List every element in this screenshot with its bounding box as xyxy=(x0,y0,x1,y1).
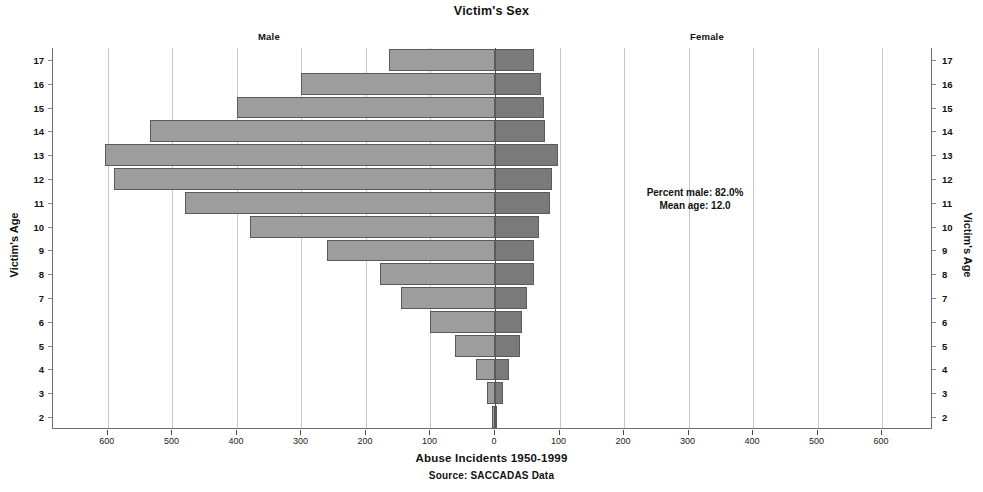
x-axis-tick-label-left: 600 xyxy=(99,436,114,446)
bar-row xyxy=(53,381,931,405)
x-axis-tick xyxy=(236,430,237,435)
bar-female[interactable] xyxy=(495,382,503,404)
bar-female[interactable] xyxy=(495,216,539,238)
y-axis-tick-label-left: 7 xyxy=(39,293,44,304)
y-axis-tick-label-right: 15 xyxy=(942,102,953,113)
bar-male[interactable] xyxy=(455,335,495,357)
y-axis-tick-label-left: 14 xyxy=(33,126,44,137)
y-axis-tick-label-right: 9 xyxy=(942,245,947,256)
y-axis-tick-right xyxy=(932,346,936,347)
y-axis-tick-label-right: 8 xyxy=(942,269,947,280)
bar-row xyxy=(53,310,931,334)
bar-female[interactable] xyxy=(495,287,527,309)
bar-row xyxy=(53,358,931,382)
x-axis-title: Abuse Incidents 1950-1999 xyxy=(0,452,983,464)
y-axis-tick-label-left: 16 xyxy=(33,78,44,89)
y-axis-tick-right xyxy=(932,155,936,156)
percent-male-text: Percent male: 82.0% xyxy=(600,186,790,199)
x-axis-tick xyxy=(365,430,366,435)
bar-female[interactable] xyxy=(495,240,534,262)
y-axis-tick-label-right: 10 xyxy=(942,221,953,232)
bar-row xyxy=(53,143,931,167)
bar-male[interactable] xyxy=(430,311,495,333)
y-axis-labels-right: 171615141312111098765432 xyxy=(932,48,983,429)
bar-row xyxy=(53,262,931,286)
x-axis-tick xyxy=(817,430,818,435)
y-axis-tick-label-left: 12 xyxy=(33,173,44,184)
y-axis-tick-label-right: 17 xyxy=(942,54,953,65)
x-axis-tick xyxy=(429,430,430,435)
x-axis-tick-label-right: 600 xyxy=(874,436,889,446)
x-axis-tick-label-right: 200 xyxy=(616,436,631,446)
y-axis-tick-label-left: 2 xyxy=(39,412,44,423)
group-label-female: Female xyxy=(690,31,724,42)
bar-male[interactable] xyxy=(150,120,495,142)
bar-row xyxy=(53,96,931,120)
x-axis-tick xyxy=(300,430,301,435)
bar-female[interactable] xyxy=(495,120,545,142)
bar-row xyxy=(53,334,931,358)
bar-male[interactable] xyxy=(114,168,495,190)
x-axis-tick xyxy=(494,430,495,435)
bar-male[interactable] xyxy=(237,97,495,119)
bar-row xyxy=(53,167,931,191)
y-axis-tick-label-right: 14 xyxy=(942,126,953,137)
y-axis-tick-label-left: 10 xyxy=(33,221,44,232)
y-axis-tick-label-right: 12 xyxy=(942,173,953,184)
y-axis-tick-right xyxy=(932,250,936,251)
plot-area xyxy=(52,48,932,429)
y-axis-tick-right xyxy=(932,369,936,370)
bar-female[interactable] xyxy=(495,49,534,71)
y-axis-tick-right xyxy=(932,179,936,180)
y-axis-tick-label-right: 5 xyxy=(942,340,947,351)
bar-male[interactable] xyxy=(301,73,495,95)
y-axis-tick-label-right: 16 xyxy=(942,78,953,89)
x-axis-tick xyxy=(688,430,689,435)
bar-row xyxy=(53,191,931,215)
x-axis-tick-label-right: 100 xyxy=(551,436,566,446)
bar-male[interactable] xyxy=(327,240,495,262)
bar-female[interactable] xyxy=(495,73,541,95)
bar-male[interactable] xyxy=(389,49,495,71)
bar-male[interactable] xyxy=(487,382,495,404)
x-axis-tick-label-right: 500 xyxy=(809,436,824,446)
bar-female[interactable] xyxy=(495,335,520,357)
x-axis-tick-label-left: 300 xyxy=(293,436,308,446)
y-axis-tick-label-left: 11 xyxy=(34,197,44,208)
bar-female[interactable] xyxy=(495,359,509,381)
y-axis-tick-label-right: 13 xyxy=(942,150,953,161)
bar-row xyxy=(53,215,931,239)
bar-female[interactable] xyxy=(495,144,558,166)
y-axis-tick-right xyxy=(932,131,936,132)
statistics-annotation: Percent male: 82.0% Mean age: 12.0 xyxy=(600,186,790,212)
x-axis-tick-label-right: 400 xyxy=(745,436,760,446)
x-axis-tick-label-left: 100 xyxy=(422,436,437,446)
bar-row xyxy=(53,48,931,72)
bar-male[interactable] xyxy=(105,144,495,166)
chart-title: Victim's Sex xyxy=(0,4,983,18)
bar-male[interactable] xyxy=(380,263,495,285)
bar-male[interactable] xyxy=(476,359,495,381)
y-axis-tick-label-left: 15 xyxy=(33,102,44,113)
bar-male[interactable] xyxy=(401,287,495,309)
y-axis-tick-label-left: 13 xyxy=(33,150,44,161)
bar-male[interactable] xyxy=(250,216,495,238)
bar-row xyxy=(53,119,931,143)
bar-female[interactable] xyxy=(495,263,534,285)
y-axis-tick-right xyxy=(932,60,936,61)
bar-female[interactable] xyxy=(495,97,544,119)
bar-row xyxy=(53,239,931,263)
bar-male[interactable] xyxy=(185,192,495,214)
y-axis-tick-label-right: 3 xyxy=(942,388,947,399)
x-axis-tick-label-zero: 0 xyxy=(491,436,496,446)
y-axis-tick-label-left: 3 xyxy=(39,388,44,399)
bar-female[interactable] xyxy=(495,168,552,190)
bar-female[interactable] xyxy=(495,406,497,428)
x-axis-tick xyxy=(171,430,172,435)
y-axis-tick-label-left: 5 xyxy=(39,340,44,351)
bar-female[interactable] xyxy=(495,311,522,333)
x-axis-tick-label-left: 200 xyxy=(357,436,372,446)
bar-row xyxy=(53,286,931,310)
bar-female[interactable] xyxy=(495,192,550,214)
y-axis-tick-label-right: 2 xyxy=(942,412,947,423)
